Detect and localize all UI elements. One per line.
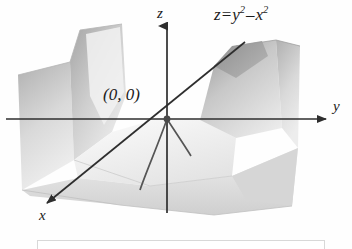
y-axis-label: y <box>333 99 340 114</box>
surface-left-back-panel <box>18 62 74 190</box>
equation-equals: = <box>221 5 233 24</box>
bottom-caption-box <box>37 240 325 249</box>
origin-label: (0, 0) <box>103 86 140 103</box>
equation-label: z=y2–x2 <box>214 6 268 23</box>
surface-illustration <box>0 0 352 249</box>
equation-term2-exponent: 2 <box>263 4 268 15</box>
x-axis-label: x <box>39 208 46 223</box>
origin-point <box>164 116 171 123</box>
equation-minus: – <box>245 5 256 24</box>
equation-term2-base: x <box>256 5 264 24</box>
equation-term1-base: y <box>232 5 240 24</box>
saddle-surface-figure: z=y2–x2 (0, 0) z y x <box>0 0 352 249</box>
z-axis-label: z <box>157 6 163 21</box>
equation-lhs: z <box>214 5 221 24</box>
